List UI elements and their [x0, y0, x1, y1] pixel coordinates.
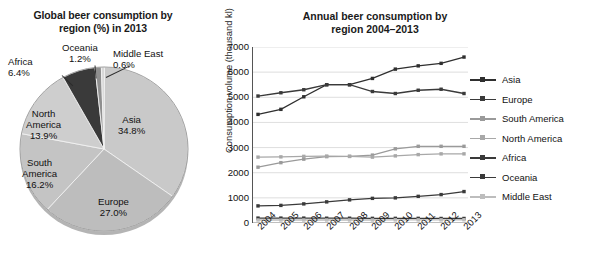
data-point-south-america-2013 — [462, 145, 465, 148]
pie-label-oceania-value: 1.2% — [62, 53, 98, 64]
y-tick-label-2000: 2000 — [228, 167, 249, 178]
data-point-europe-2010 — [394, 92, 397, 95]
legend-label-oceania: Oceania — [496, 172, 537, 183]
pie-label-south-america-name2: America — [22, 168, 57, 179]
legend-item-europe[interactable]: Europe — [470, 90, 595, 110]
data-point-europe-2013 — [462, 92, 465, 95]
gridlines — [252, 47, 468, 223]
pie-label-africa-value: 6.4% — [8, 67, 33, 78]
data-point-africa-2004 — [256, 204, 259, 207]
data-point-europe-2011 — [417, 89, 420, 92]
data-point-north-america-2004 — [256, 155, 259, 158]
y-tick-label-5000: 5000 — [228, 91, 249, 102]
series-line-asia — [258, 57, 464, 114]
legend-label-asia: Asia — [496, 74, 520, 85]
data-point-south-america-2012 — [439, 145, 442, 148]
y-tick-label-4000: 4000 — [228, 116, 249, 127]
data-point-asia-2009 — [371, 77, 374, 80]
data-point-asia-2013 — [462, 55, 465, 58]
data-point-europe-2004 — [256, 94, 259, 97]
legend-label-middle-east: Middle East — [496, 191, 552, 202]
plot-area — [252, 47, 468, 223]
data-point-asia-2010 — [394, 67, 397, 70]
plot-svg — [252, 47, 468, 223]
data-point-north-america-2006 — [302, 155, 305, 158]
pie-label-middle-east-value: 0.6% — [113, 59, 163, 70]
legend-marker-oceania — [470, 172, 496, 182]
legend-label-europe: Europe — [496, 94, 533, 105]
data-point-europe-2006 — [302, 88, 305, 91]
legend-marker-middle-east — [470, 192, 496, 202]
data-point-north-america-2013 — [462, 152, 465, 155]
pie-label-south-america-name: South — [22, 157, 57, 168]
legend-marker-asia — [470, 75, 496, 85]
series-line-europe — [258, 85, 464, 96]
pie-title-line-2: region (%) in 2013 — [6, 22, 200, 35]
series-lines — [256, 55, 465, 221]
legend-item-asia[interactable]: Asia — [470, 70, 595, 90]
legend-marker-south-america — [470, 114, 496, 124]
pie-chart-panel: Global beer consumption by region (%) in… — [0, 0, 205, 264]
data-point-asia-2006 — [302, 95, 305, 98]
pie-label-south-america: South America 16.2% — [22, 157, 57, 190]
data-point-africa-2005 — [279, 204, 282, 207]
pie-label-africa-name: Africa — [8, 56, 33, 67]
data-point-north-america-2012 — [439, 152, 442, 155]
data-point-africa-2010 — [394, 196, 397, 199]
data-point-north-america-2010 — [394, 154, 397, 157]
data-point-africa-2006 — [302, 202, 305, 205]
pie-label-oceania: Oceania 1.2% — [62, 42, 98, 64]
pie-title-line-1: Global beer consumption by — [6, 9, 200, 22]
legend-item-north-america[interactable]: North America — [470, 129, 595, 149]
data-point-africa-2011 — [417, 195, 420, 198]
pie-chart-title: Global beer consumption by region (%) in… — [6, 9, 200, 35]
pie-label-north-america-name2: America — [26, 119, 61, 130]
pie-label-europe-name: Europe — [98, 196, 129, 207]
data-point-south-america-2011 — [417, 145, 420, 148]
line-title-line-1: Annual beer consumption by — [250, 10, 500, 23]
pie-label-asia-name: Asia — [118, 114, 145, 125]
figure-root: Global beer consumption by region (%) in… — [0, 0, 595, 264]
pie-label-asia-value: 34.8% — [118, 125, 145, 136]
y-tick-label-0: 0 — [244, 217, 249, 228]
data-point-asia-2005 — [279, 108, 282, 111]
legend-item-oceania[interactable]: Oceania — [470, 168, 595, 188]
legend-marker-north-america — [470, 133, 496, 143]
data-point-europe-2008 — [348, 83, 351, 86]
legend-marker-europe — [470, 94, 496, 104]
data-point-africa-2009 — [371, 197, 374, 200]
pie-label-north-america: North America 13.9% — [26, 108, 61, 141]
pie-label-middle-east-name: Middle East — [113, 48, 163, 59]
data-point-north-america-2011 — [417, 153, 420, 156]
series-line-africa — [258, 192, 464, 206]
legend-marker-africa — [470, 153, 496, 163]
data-point-south-america-2005 — [279, 161, 282, 164]
data-point-africa-2008 — [348, 198, 351, 201]
data-point-africa-2007 — [325, 200, 328, 203]
data-point-africa-2012 — [439, 193, 442, 196]
y-axis-ticks: 01000200030004000500060007000 — [205, 47, 249, 223]
pie-label-north-america-name: North — [26, 108, 61, 119]
pie-label-middle-east: Middle East 0.6% — [113, 48, 163, 70]
pie-label-europe: Europe 27.0% — [98, 196, 129, 218]
chart-legend: AsiaEuropeSouth AmericaNorth AmericaAfri… — [470, 70, 595, 207]
data-point-asia-2004 — [256, 113, 259, 116]
legend-item-middle-east[interactable]: Middle East — [470, 187, 595, 207]
line-chart-title: Annual beer consumption by region 2004–2… — [250, 10, 500, 36]
data-point-north-america-2009 — [371, 155, 374, 158]
line-chart-panel: Annual beer consumption by region 2004–2… — [205, 0, 595, 264]
legend-item-south-america[interactable]: South America — [470, 109, 595, 129]
pie-label-north-america-value: 13.9% — [26, 130, 61, 141]
line-title-line-2: region 2004–2013 — [250, 23, 500, 36]
legend-label-africa: Africa — [496, 152, 526, 163]
data-point-europe-2012 — [439, 88, 442, 91]
data-point-asia-2011 — [417, 64, 420, 67]
x-axis-ticks: 2004200520062007200820092010201120122013 — [252, 224, 482, 264]
legend-item-africa[interactable]: Africa — [470, 148, 595, 168]
data-point-south-america-2004 — [256, 165, 259, 168]
y-tick-label-3000: 3000 — [228, 142, 249, 153]
legend-label-south-america: South America — [496, 113, 564, 124]
y-tick-label-7000: 7000 — [228, 41, 249, 52]
data-point-europe-2005 — [279, 91, 282, 94]
y-tick-label-6000: 6000 — [228, 66, 249, 77]
